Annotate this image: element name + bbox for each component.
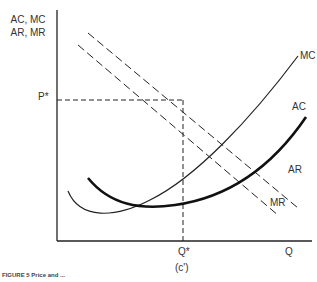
ac-curve bbox=[88, 117, 306, 207]
ac-label: AC bbox=[292, 101, 306, 112]
cost-revenue-diagram bbox=[0, 0, 317, 282]
price-label: P* bbox=[38, 91, 49, 102]
y-axis-label-line1: AC, MC bbox=[6, 13, 50, 26]
y-axis-label-line2: AR, MR bbox=[6, 26, 50, 39]
mc-label: MC bbox=[300, 50, 316, 61]
quantity-label: Q* bbox=[178, 246, 190, 257]
y-axis-label: AC, MC AR, MR bbox=[6, 13, 50, 39]
panel-label: (c') bbox=[175, 262, 189, 273]
mr-curve bbox=[78, 45, 279, 216]
mr-label: MR bbox=[270, 197, 286, 208]
figure-caption: FIGURE 5 Price and ... bbox=[2, 272, 65, 278]
ar-label: AR bbox=[288, 164, 302, 175]
x-axis-label: Q bbox=[285, 246, 293, 257]
ar-curve bbox=[88, 33, 298, 208]
